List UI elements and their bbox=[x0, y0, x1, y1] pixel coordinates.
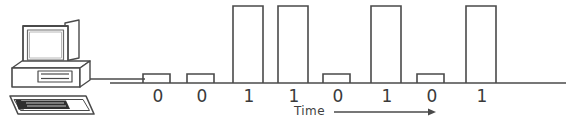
desktop-computer-illustration bbox=[10, 20, 94, 114]
pulse-bit-1-index-3 bbox=[278, 6, 308, 83]
keyboard-keys bbox=[16, 101, 70, 110]
bit-label-4: 0 bbox=[326, 86, 350, 106]
bit-label-3: 1 bbox=[282, 86, 306, 106]
bit-label-2: 1 bbox=[237, 86, 261, 106]
digital-signal-figure: 0 0 1 1 0 1 0 1 Time bbox=[0, 0, 575, 124]
time-axis-label: Time bbox=[294, 104, 325, 118]
bit-label-0: 0 bbox=[146, 86, 170, 106]
pulse-bit-1-index-5 bbox=[371, 6, 401, 83]
bit-label-5: 1 bbox=[375, 86, 399, 106]
pulse-bit-0-index-0 bbox=[143, 74, 170, 83]
bit-label-7: 1 bbox=[470, 86, 494, 106]
pulse-bit-0-index-1 bbox=[187, 74, 214, 83]
pulse-bit-0-index-4 bbox=[323, 74, 350, 83]
signal-waveform bbox=[110, 6, 566, 83]
time-axis-arrow bbox=[334, 109, 436, 116]
pulse-bit-1-index-2 bbox=[233, 6, 263, 83]
pulse-bit-0-index-6 bbox=[417, 74, 444, 83]
bit-label-6: 0 bbox=[420, 86, 444, 106]
time-arrow-head bbox=[428, 109, 436, 116]
monitor-screen bbox=[28, 30, 64, 60]
pulse-bit-1-index-7 bbox=[466, 6, 496, 83]
system-case-top bbox=[12, 61, 90, 68]
bit-label-1: 0 bbox=[190, 86, 214, 106]
floppy-drive-bay bbox=[38, 71, 72, 82]
